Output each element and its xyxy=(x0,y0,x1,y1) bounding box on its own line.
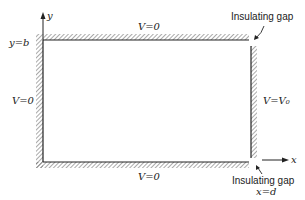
right-electrode-hatch xyxy=(251,46,257,158)
boundary-diagram: y x y=b V=0 V=0 V=0 V=V₀ Insulating gap … xyxy=(0,0,305,200)
x-axis-label: x xyxy=(291,154,297,165)
top-gap-arrow xyxy=(254,26,264,40)
y-axis-label: y xyxy=(46,10,53,21)
bottom-gap-label: Insulating gap xyxy=(232,175,295,186)
top-gap-label: Insulating gap xyxy=(231,11,294,22)
top-electrode-hatch xyxy=(36,34,249,40)
x-equals-d-label: x=d xyxy=(256,186,276,197)
top-potential-label: V=0 xyxy=(138,21,161,32)
x-axis xyxy=(262,158,289,163)
left-electrode-hatch xyxy=(36,40,43,168)
bottom-electrode-hatch xyxy=(36,162,249,168)
y-equals-b-label: y=b xyxy=(8,37,29,48)
bottom-gap-arrow xyxy=(256,165,262,174)
left-potential-label: V=0 xyxy=(12,95,35,106)
bottom-potential-label: V=0 xyxy=(138,171,161,182)
right-potential-label: V=V₀ xyxy=(263,95,290,106)
